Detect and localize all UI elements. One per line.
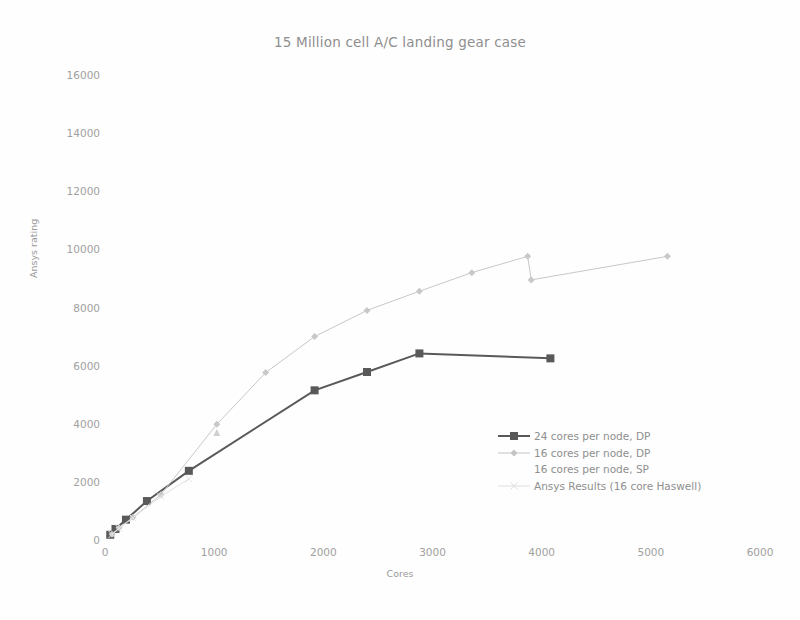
legend-item-label: 24 cores per node, DP: [531, 430, 650, 442]
chart-legend: 24 cores per node, DP16 cores per node, …: [497, 428, 747, 494]
series-marker: [416, 288, 423, 295]
series-marker: [213, 429, 220, 436]
series-line: [112, 479, 189, 535]
series-marker: [185, 475, 192, 482]
x-tick-label: 6000: [725, 546, 795, 558]
legend-item[interactable]: Ansys Results (16 core Haswell): [497, 478, 747, 495]
x-tick-label: 4000: [507, 546, 577, 558]
legend-marker-icon: [497, 462, 531, 476]
series-marker: [185, 467, 193, 475]
series-marker: [363, 368, 371, 376]
y-tick-label: 2000: [44, 476, 100, 488]
legend-item-label: 16 cores per node, SP: [531, 463, 649, 475]
y-axis-tick-labels: 0200040006000800010000120001400016000: [40, 75, 100, 540]
y-tick-label: 6000: [44, 360, 100, 372]
y-tick-label: 10000: [44, 243, 100, 255]
series-marker: [311, 333, 318, 340]
series-line: [110, 353, 550, 534]
chart-series: [106, 349, 554, 538]
x-axis-tick-labels: 0100020003000400050006000: [105, 546, 760, 566]
chart-figure: 15 Million cell A/C landing gear case An…: [0, 0, 800, 620]
x-tick-label: 2000: [288, 546, 358, 558]
series-marker: [546, 354, 554, 362]
x-tick-label: 3000: [398, 546, 468, 558]
series-marker: [528, 276, 535, 283]
chart-series: [213, 429, 220, 436]
y-tick-label: 4000: [44, 418, 100, 430]
x-tick-label: 0: [70, 546, 140, 558]
series-marker: [468, 269, 475, 276]
legend-marker-icon: [497, 446, 531, 460]
y-tick-label: 0: [44, 534, 100, 546]
chart-title: 15 Million cell A/C landing gear case: [0, 34, 800, 50]
series-marker: [415, 349, 423, 357]
x-axis-title: Cores: [0, 568, 800, 579]
legend-marker-icon: [497, 479, 531, 493]
y-tick-label: 8000: [44, 302, 100, 314]
y-tick-label: 14000: [44, 127, 100, 139]
chart-series: [108, 253, 670, 538]
series-marker: [364, 307, 371, 314]
x-tick-label: 1000: [179, 546, 249, 558]
legend-item-label: 16 cores per node, DP: [531, 447, 650, 459]
legend-item[interactable]: 16 cores per node, DP: [497, 445, 747, 462]
y-axis-title: Ansys rating: [28, 219, 39, 278]
series-marker: [664, 253, 671, 260]
series-marker: [311, 386, 319, 394]
legend-marker-icon: [497, 429, 531, 443]
legend-item[interactable]: 16 cores per node, SP: [497, 461, 747, 478]
legend-item-label: Ansys Results (16 core Haswell): [531, 480, 701, 492]
x-tick-label: 5000: [616, 546, 686, 558]
series-marker: [524, 253, 531, 260]
legend-item[interactable]: 24 cores per node, DP: [497, 428, 747, 445]
y-tick-label: 12000: [44, 185, 100, 197]
y-tick-label: 16000: [44, 69, 100, 81]
